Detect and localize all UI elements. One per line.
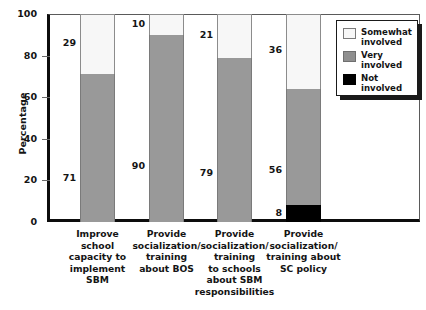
bar-value-label: 21 bbox=[173, 29, 213, 40]
legend-swatch-not-involved-icon bbox=[343, 74, 356, 85]
legend-label-line1: Somewhat bbox=[361, 27, 412, 37]
y-axis-tick-label: 60 bbox=[24, 91, 37, 102]
legend-label: Very involved bbox=[361, 50, 402, 70]
bar-segment-somewhat-involved[interactable] bbox=[286, 14, 321, 89]
legend-label-line2: involved bbox=[361, 37, 402, 47]
bar-value-label: 10 bbox=[105, 18, 145, 29]
x-axis-label-line: socialization/ bbox=[258, 240, 350, 252]
legend-label: Not involved bbox=[361, 73, 402, 93]
bar-value-label: 29 bbox=[36, 37, 76, 48]
x-axis-label-4: Providesocialization/training aboutSC po… bbox=[258, 228, 350, 274]
bar-segment-very-involved[interactable] bbox=[286, 89, 321, 205]
y-axis-tick-mark bbox=[42, 97, 50, 98]
legend-item[interactable]: Not involved bbox=[343, 73, 412, 93]
bar-value-label: 79 bbox=[173, 167, 213, 178]
legend-label-line1: Not bbox=[361, 73, 378, 83]
bar-1[interactable] bbox=[80, 14, 115, 222]
legend-item[interactable]: Somewhat involved bbox=[343, 27, 412, 47]
legend-label-line1: Very bbox=[361, 50, 383, 60]
bar-value-label: 90 bbox=[105, 160, 145, 171]
y-axis-tick-label: 80 bbox=[24, 50, 37, 61]
legend-swatch-somewhat-involved-icon bbox=[343, 28, 356, 39]
bar-value-label: 36 bbox=[242, 44, 282, 55]
x-axis-label-line: about SBM bbox=[189, 274, 281, 286]
x-axis-label-line: SBM bbox=[52, 274, 144, 286]
legend-label: Somewhat involved bbox=[361, 27, 412, 47]
bar-segment-not-involved[interactable] bbox=[286, 205, 321, 222]
bar-segment-very-involved[interactable] bbox=[149, 35, 184, 222]
bar-segment-very-involved[interactable] bbox=[217, 58, 252, 222]
x-axis-label-line: training about bbox=[258, 251, 350, 263]
x-axis-label-line: Provide bbox=[258, 228, 350, 240]
legend-swatch-very-involved-icon bbox=[343, 51, 356, 62]
bar-value-label: 8 bbox=[242, 207, 282, 218]
y-axis-tick-label: 20 bbox=[24, 174, 37, 185]
y-axis-tick-mark bbox=[42, 56, 50, 57]
bar-2[interactable] bbox=[149, 14, 184, 222]
y-axis-tick-label: 100 bbox=[17, 8, 37, 19]
x-axis-label-line: responsibilities bbox=[189, 286, 281, 298]
y-axis-tick-mark bbox=[42, 139, 50, 140]
chart-figure: Percentage 020406080100 7129901079218563… bbox=[0, 0, 426, 310]
y-axis-tick-label: 0 bbox=[30, 216, 37, 227]
bar-4[interactable] bbox=[286, 14, 321, 222]
bar-value-label: 56 bbox=[242, 164, 282, 175]
bar-segment-very-involved[interactable] bbox=[80, 74, 115, 222]
legend-label-line2: involved bbox=[361, 60, 402, 70]
bar-value-label: 71 bbox=[36, 172, 76, 183]
x-axis-label-line: SC policy bbox=[258, 263, 350, 275]
legend-label-line2: involved bbox=[361, 83, 402, 93]
legend-item[interactable]: Very involved bbox=[343, 50, 412, 70]
chart-legend: Somewhat involved Very involved Not invo… bbox=[336, 20, 418, 96]
y-axis-tick-label: 40 bbox=[24, 133, 37, 144]
